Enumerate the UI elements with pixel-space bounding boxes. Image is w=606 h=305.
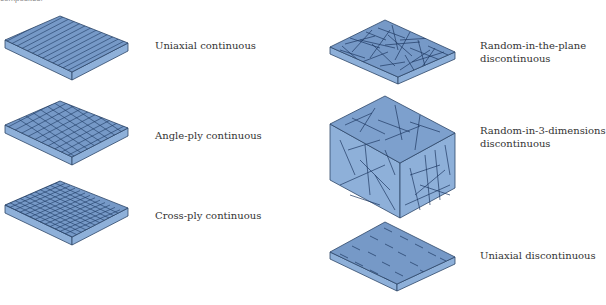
- slab-random-in-the-plane: [330, 20, 455, 84]
- label-random-in-the-plane: Random-in-the-planediscontinuous: [480, 40, 586, 65]
- label-angle-ply-continuous: Angle-ply continuous: [155, 130, 262, 143]
- label-uniaxial-discontinuous: Uniaxial discontinuous: [480, 250, 596, 263]
- slab-uniaxial-discontinuous: [330, 222, 455, 291]
- slab-cross-ply-continuous: [5, 181, 128, 245]
- slab-uniaxial-continuous: [0, 0, 148, 101]
- cube-random-in-3-dimensions: [330, 96, 455, 218]
- label-cross-ply-continuous: Cross-ply continuous: [155, 210, 261, 223]
- label-random-in-3-dimensions: Random-in-3-dimensionsdiscontinuous: [480, 125, 606, 150]
- label-uniaxial-continuous: Uniaxial continuous: [155, 40, 256, 53]
